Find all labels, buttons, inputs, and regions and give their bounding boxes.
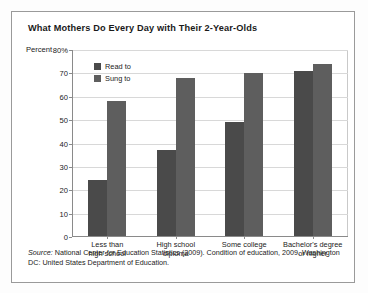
bar-read-to[interactable] [88,180,107,236]
y-tick-label: 60 [60,92,68,101]
legend-label-sung-to: Sung to [105,74,130,83]
source-text: National Center for Education Statistics… [28,248,340,267]
bar-read-to[interactable] [294,71,313,236]
chart-title: What Mothers Do Every Day with Their 2-Y… [28,23,257,33]
bar-sung-to[interactable] [244,73,263,236]
bars [210,50,279,236]
chart-card: What Mothers Do Every Day with Their 2-Y… [11,11,355,283]
x-axis-line [72,236,348,237]
bar-sung-to[interactable] [107,101,126,236]
y-tick-label: 30 [60,162,68,171]
bars [142,50,211,236]
y-tick-label: 70 [60,69,68,78]
chart-page: What Mothers Do Every Day with Their 2-Y… [0,0,368,293]
x-tick-mark [313,236,314,239]
x-tick-mark [176,236,177,239]
bar-sung-to[interactable] [313,64,332,236]
legend-label-read-to: Read to [105,62,131,71]
y-tick-mark [69,237,72,238]
x-tick-mark [107,236,108,239]
legend-item-sung-to: Sung to [94,74,131,83]
y-tick-label: 50 [60,116,68,125]
bar-group: Some college [210,50,279,236]
bars [279,50,348,236]
legend-swatch-icon-read-to [94,63,101,70]
bar-sung-to[interactable] [176,78,195,236]
bar-group: Bachelor's degreeor higher [279,50,348,236]
legend-item-read-to: Read to [94,62,131,71]
y-tick-label: 80% [53,46,68,55]
y-axis-title: Percent [26,45,52,54]
bar-read-to[interactable] [157,150,176,236]
legend-swatch-icon-sung-to [94,75,101,82]
plot-wrapper: 80%706050403020100 Less thanhigh schoolH… [72,50,348,237]
y-tick-label: 40 [60,139,68,148]
y-tick-label: 10 [60,209,68,218]
y-tick-label: 20 [60,186,68,195]
source-note: Source: National Center for Education St… [28,248,340,269]
bar-group: High schooldiploma [142,50,211,236]
bar-read-to[interactable] [225,122,244,236]
x-tick-mark [244,236,245,239]
source-label: Source: [28,248,53,257]
y-tick-label: 0 [64,233,68,242]
legend: Read to Sung to [94,62,131,86]
